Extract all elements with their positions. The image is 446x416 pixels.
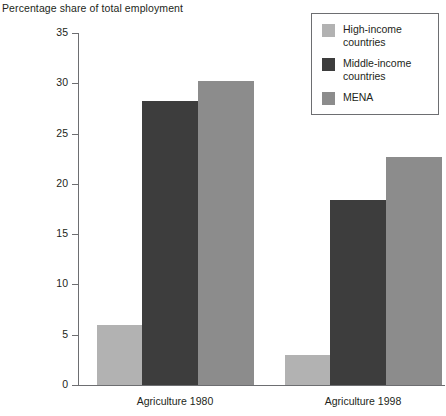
legend-color-swatch xyxy=(322,92,335,105)
legend-item-label: High-income countries xyxy=(343,23,430,48)
x-axis-category-label: Agriculture 1980 xyxy=(137,394,213,408)
legend-item: High-income countries xyxy=(322,23,430,48)
legend-item: Middle-income countries xyxy=(322,57,430,82)
y-axis-tick-label: 5 xyxy=(62,328,68,341)
y-axis-tick-label: 30 xyxy=(56,76,68,89)
y-axis-tick-mark xyxy=(72,234,78,235)
bar xyxy=(386,157,442,385)
y-axis-tick-label: 35 xyxy=(56,26,68,39)
legend-item: MENA xyxy=(322,91,430,105)
chart-legend: High-income countriesMiddle-income count… xyxy=(311,13,439,115)
y-axis-tick-label: 15 xyxy=(56,227,68,240)
y-axis-tick-mark xyxy=(72,335,78,336)
legend-item-label: MENA xyxy=(343,91,373,104)
y-axis-tick-mark xyxy=(72,33,78,34)
y-axis-tick-label: 10 xyxy=(56,277,68,290)
y-axis-tick-mark xyxy=(72,83,78,84)
x-axis-line xyxy=(78,385,445,386)
legend-color-swatch xyxy=(322,58,335,71)
bar xyxy=(330,200,386,385)
x-axis-category-label: Agriculture 1998 xyxy=(325,394,401,408)
bar xyxy=(97,325,142,385)
y-axis-tick-label: 25 xyxy=(56,127,68,140)
bar xyxy=(285,355,330,385)
legend-color-swatch xyxy=(322,24,335,37)
bar xyxy=(198,81,254,385)
y-axis-tick-mark xyxy=(72,184,78,185)
chart-title: Percentage share of total employment xyxy=(2,2,183,15)
y-axis-tick-label: 0 xyxy=(62,378,68,391)
legend-item-label: Middle-income countries xyxy=(343,57,430,82)
y-axis-tick-mark xyxy=(72,134,78,135)
y-axis-tick-mark xyxy=(72,385,78,386)
bar xyxy=(142,101,198,385)
y-axis-tick-label: 20 xyxy=(56,177,68,190)
y-axis-tick-mark xyxy=(72,284,78,285)
